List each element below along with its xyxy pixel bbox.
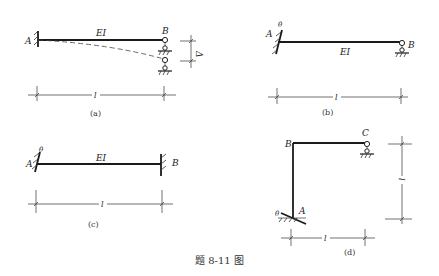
label-b: B [161,26,169,36]
label-b: B [171,158,179,168]
label-width: l [324,234,327,243]
label-theta: θ [275,210,280,218]
label-b: B [284,139,292,149]
label-ei: EI [339,47,351,57]
label-c: C [362,128,369,138]
label-span: l [335,93,338,102]
rotated-fixed-support-a [35,152,40,172]
label-height: l [397,178,406,181]
label-a: A [24,36,32,46]
structural-diagram: A EI B [0,0,439,276]
panel-d: B C θ A l [275,128,412,257]
label-theta: θ [39,146,44,154]
width-dimension [281,229,375,246]
label-a: A [25,159,33,169]
panel-b: θ A EI B l (b) [265,21,415,117]
label-span: l [101,200,104,209]
panel-a: A EI B [24,26,204,118]
span-dimension [28,86,176,101]
caption-a: (a) [90,109,101,118]
label-a: A [265,29,273,39]
label-delta: Δ [194,50,204,58]
panel-c: θ A EI B l (c) [25,146,179,229]
deflected-shape [38,40,164,59]
label-a: A [298,206,306,216]
label-ei: EI [95,153,107,163]
label-span: l [94,91,97,100]
span-dimension [268,88,408,104]
settled-roller-support-icon [158,57,172,75]
figure-title: 题 8-11 图 [0,252,439,267]
caption-b: (b) [322,108,333,117]
label-b: B [407,40,415,50]
caption-c: (c) [88,220,99,229]
label-ei: EI [95,28,107,38]
settlement-dimension [180,35,196,68]
label-theta: θ [278,21,283,29]
